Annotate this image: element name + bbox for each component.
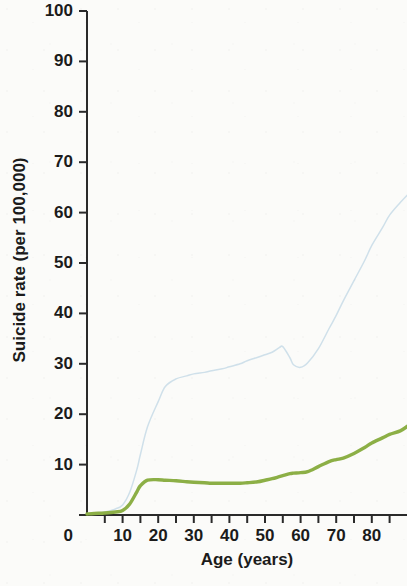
chart-figure: 01020304050607080901000 1020304050607080…	[0, 0, 407, 586]
chart-series-group	[87, 195, 407, 514]
x-tick-label: 70	[319, 527, 353, 544]
x-tick-label: 20	[141, 527, 175, 544]
series-line-higher	[87, 195, 407, 514]
origin-zero-label: 0	[27, 527, 73, 544]
x-axis-title: Age (years)	[87, 550, 407, 570]
x-tick-label: 10	[106, 527, 140, 544]
suicide-rate-line-chart	[0, 0, 407, 586]
x-tick-label: 60	[284, 527, 318, 544]
chart-axes	[87, 11, 407, 515]
y-axis-title-wrap: Suicide rate (per 100,000)	[0, 0, 40, 520]
x-axis-ticks	[105, 515, 390, 523]
x-tick-label: 30	[177, 527, 211, 544]
y-axis-title: Suicide rate (per 100,000)	[10, 157, 30, 362]
y-axis-ticks	[79, 11, 87, 515]
x-tick-label: 40	[212, 527, 246, 544]
x-tick-label: 80	[355, 527, 389, 544]
x-tick-label: 50	[248, 527, 282, 544]
series-line-lower	[87, 426, 407, 514]
